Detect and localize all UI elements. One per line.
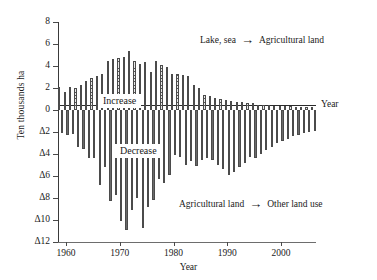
bar-decrease xyxy=(131,110,133,210)
bar-increase xyxy=(214,98,216,110)
bar-decrease xyxy=(99,110,101,185)
bar-decrease xyxy=(88,110,90,158)
bar-increase xyxy=(182,75,184,110)
bar-decrease xyxy=(66,110,68,135)
y-tick xyxy=(53,220,58,221)
bar-decrease xyxy=(244,110,246,163)
y-tick-label: 2 xyxy=(45,83,50,93)
y-tick xyxy=(53,110,58,111)
bar-increase xyxy=(69,87,71,110)
y-axis-line xyxy=(58,22,59,242)
y-tick xyxy=(53,66,58,67)
bar-decrease xyxy=(217,110,219,165)
x-axis-title: Year xyxy=(0,262,377,272)
bar-decrease xyxy=(163,110,165,183)
annotation-increase: Increase xyxy=(98,94,141,108)
bar-decrease xyxy=(308,110,310,132)
bar-increase xyxy=(171,74,173,110)
arrow-right-icon: → xyxy=(241,33,254,46)
arrow-right-icon: → xyxy=(249,197,262,210)
bar-increase xyxy=(225,100,227,110)
bar-decrease xyxy=(195,110,197,166)
bar-decrease xyxy=(142,110,144,228)
bar-increase xyxy=(155,61,157,111)
x-tick xyxy=(227,242,228,246)
y-tick xyxy=(53,22,58,23)
x-tick-label: 2000 xyxy=(272,248,291,258)
y-tick-label: Δ2 xyxy=(39,127,50,137)
bar-decrease xyxy=(292,110,294,136)
y-tick-label: Δ8 xyxy=(39,193,50,203)
x-tick-label: 1990 xyxy=(218,248,237,258)
bar-decrease xyxy=(72,110,74,134)
bar-decrease xyxy=(233,110,235,172)
bar-decrease xyxy=(238,110,240,167)
x-tick xyxy=(174,242,175,246)
bar-decrease xyxy=(82,110,84,149)
bar-increase xyxy=(90,78,92,110)
bar-increase xyxy=(144,62,146,110)
bar-increase xyxy=(74,88,76,110)
y-tick-label: 6 xyxy=(45,39,50,49)
x-tick-label: 1970 xyxy=(110,248,129,258)
y-tick xyxy=(53,242,58,243)
x-tick xyxy=(281,242,282,246)
bar-increase xyxy=(219,99,221,110)
bar-increase xyxy=(198,88,200,110)
y-tick-label: Δ12 xyxy=(34,237,50,247)
bar-decrease xyxy=(190,110,192,161)
bar-increase xyxy=(85,81,87,110)
bar-increase xyxy=(176,74,178,110)
chart-canvas: Ten thousands ha Year Year 86420Δ2Δ4Δ6Δ8… xyxy=(0,0,377,280)
note-top-source: Lake, sea xyxy=(200,35,236,45)
bar-increase xyxy=(241,102,243,110)
bar-decrease xyxy=(120,110,122,221)
bar-increase xyxy=(64,92,66,110)
annotation-agricultural-to-other: Agricultural land → Other land use xyxy=(179,197,323,210)
y-tick xyxy=(53,198,58,199)
y-tick xyxy=(53,176,58,177)
annotation-decrease: Decrease xyxy=(115,144,162,158)
bar-decrease xyxy=(314,110,316,131)
bar-increase xyxy=(236,102,238,110)
bar-decrease xyxy=(271,110,273,147)
bar-increase xyxy=(150,72,152,111)
bar-increase xyxy=(187,76,189,110)
bar-decrease xyxy=(147,110,149,207)
bar-decrease xyxy=(265,110,267,150)
bar-decrease xyxy=(104,110,106,167)
bar-increase xyxy=(58,87,60,110)
x-tick xyxy=(66,242,67,246)
y-tick-label: Δ10 xyxy=(34,215,50,225)
bar-increase xyxy=(209,96,211,110)
bar-decrease xyxy=(303,110,305,133)
bar-decrease xyxy=(125,110,127,230)
x-tick-label: 1960 xyxy=(57,248,76,258)
bar-decrease xyxy=(254,110,256,158)
annotation-lake-to-agricultural: Lake, sea → Agricultural land xyxy=(200,33,324,46)
bar-increase xyxy=(160,65,162,110)
y-tick xyxy=(53,154,58,155)
bar-increase xyxy=(193,85,195,110)
y-tick xyxy=(53,44,58,45)
bar-decrease xyxy=(179,110,181,157)
bar-decrease xyxy=(61,110,63,133)
bar-increase xyxy=(246,103,248,110)
bar-decrease xyxy=(77,110,79,147)
bar-decrease xyxy=(276,110,278,143)
y-axis-title: Ten thousands ha xyxy=(16,40,26,170)
bar-decrease xyxy=(211,110,213,160)
bar-decrease xyxy=(281,110,283,141)
y-tick-label: 4 xyxy=(45,61,50,71)
y-tick-label: 8 xyxy=(45,17,50,27)
y-tick-label: Δ4 xyxy=(39,149,50,159)
bar-decrease xyxy=(109,110,111,201)
note-bottom-target: Other land use xyxy=(267,199,322,209)
x-tick xyxy=(120,242,121,246)
y-tick xyxy=(53,132,58,133)
bar-decrease xyxy=(201,110,203,160)
bar-decrease xyxy=(297,110,299,135)
bar-decrease xyxy=(228,110,230,175)
bar-decrease xyxy=(174,110,176,155)
note-top-target: Agricultural land xyxy=(259,35,324,45)
